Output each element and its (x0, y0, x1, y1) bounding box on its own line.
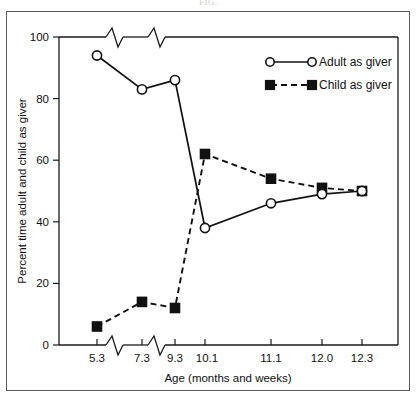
series-markers-child-as-giver (92, 149, 366, 331)
legend-item-child-as-giver[interactable]: Child as giver (266, 78, 392, 92)
x-tick-label-11-1: 11.1 (260, 352, 282, 364)
y-tick-label-20: 20 (36, 277, 49, 289)
legend-marker-filled-square-left (266, 81, 275, 90)
y-tick-label-0: 0 (43, 339, 49, 351)
legend-marker-open-circle-right (308, 58, 316, 66)
x-tick-label-10-1: 10.1 (196, 352, 218, 364)
data-point (200, 149, 209, 158)
legend-marker-open-circle-left (266, 58, 274, 66)
axis-break-top-1 (106, 28, 123, 47)
x-tick-label-5-3: 5.3 (89, 352, 105, 364)
data-point (137, 297, 146, 306)
data-point (92, 51, 101, 60)
data-point (200, 223, 209, 232)
legend: Adult as giver Child as giver (266, 55, 392, 92)
axis-break-top-2 (148, 28, 165, 47)
data-point (137, 85, 146, 94)
data-point (357, 186, 366, 195)
chart-root: 100 80 60 40 20 0 Percent time adult and… (0, 0, 417, 404)
y-axis-ticks (53, 37, 59, 345)
x-tick-label-7-3: 7.3 (134, 352, 150, 364)
data-point (266, 199, 275, 208)
axis-break-bottom-2 (148, 336, 165, 355)
data-point (170, 303, 179, 312)
data-point (266, 174, 275, 183)
y-tick-labels: 100 80 60 40 20 0 (30, 31, 49, 351)
legend-label-adult-as-giver: Adult as giver (319, 55, 392, 69)
y-axis-title: Percent time adult and child as giver (16, 98, 28, 284)
legend-item-adult-as-giver[interactable]: Adult as giver (266, 55, 392, 69)
data-point (317, 190, 326, 199)
line-chart: 100 80 60 40 20 0 Percent time adult and… (0, 0, 417, 404)
x-axis-title: Age (months and weeks) (164, 372, 291, 384)
data-point (170, 76, 179, 85)
legend-marker-filled-square-right (308, 81, 317, 90)
y-tick-label-80: 80 (36, 93, 49, 105)
y-tick-label-60: 60 (36, 154, 49, 166)
data-point (92, 322, 101, 331)
legend-label-child-as-giver: Child as giver (319, 78, 392, 92)
x-tick-label-12-0: 12.0 (311, 352, 333, 364)
x-tick-label-12-3: 12.3 (351, 352, 373, 364)
axis-break-bottom-1 (106, 336, 123, 355)
x-tick-labels: 5.3 7.3 9.3 10.1 11.1 12.0 12.3 (89, 352, 373, 364)
y-tick-label-100: 100 (30, 31, 49, 43)
y-tick-label-40: 40 (36, 216, 49, 228)
x-axis-ticks (97, 339, 362, 345)
x-tick-label-9-3: 9.3 (167, 352, 183, 364)
